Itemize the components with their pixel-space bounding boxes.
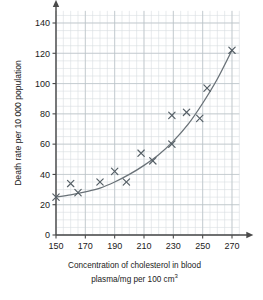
- svg-text:140: 140: [35, 18, 50, 28]
- chart-figure: 150170190210230250270020406080100120140 …: [0, 0, 263, 300]
- x-axis-title-superscript: 3: [174, 273, 177, 279]
- svg-text:40: 40: [40, 170, 50, 180]
- x-axis-title: Concentration of cholesterol in blood pl…: [10, 260, 259, 285]
- svg-text:0: 0: [45, 230, 50, 240]
- scatter-plot: 150170190210230250270020406080100120140: [0, 0, 263, 300]
- svg-text:190: 190: [107, 241, 122, 251]
- svg-text:210: 210: [136, 241, 151, 251]
- svg-text:230: 230: [166, 241, 181, 251]
- svg-text:170: 170: [78, 241, 93, 251]
- svg-text:60: 60: [40, 139, 50, 149]
- x-axis-title-line1: Concentration of cholesterol in blood: [68, 261, 201, 270]
- svg-text:270: 270: [224, 241, 239, 251]
- svg-text:20: 20: [40, 200, 50, 210]
- x-axis-title-line2: plasma/mg per 100 cm: [91, 275, 174, 284]
- svg-text:100: 100: [35, 79, 50, 89]
- plot-background: [0, 0, 263, 300]
- svg-text:150: 150: [48, 241, 63, 251]
- y-axis-title: Death rate per 10 000 population: [13, 10, 24, 236]
- svg-text:120: 120: [35, 49, 50, 59]
- svg-text:80: 80: [40, 109, 50, 119]
- svg-text:250: 250: [195, 241, 210, 251]
